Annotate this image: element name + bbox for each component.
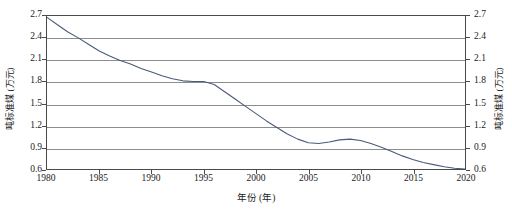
x-axis-tick-label: 2015 xyxy=(394,173,434,183)
y-axis-tick-label: 1.5 xyxy=(18,99,42,108)
y-axis-tick-mark xyxy=(466,104,470,105)
x-axis-tick-mark xyxy=(309,170,310,174)
y-axis-tick-mark xyxy=(466,59,470,60)
y-axis-tick-label: 0.9 xyxy=(18,143,42,152)
x-axis-tick-label: 1980 xyxy=(26,173,66,183)
x-axis-tick-label: 1995 xyxy=(184,173,224,183)
y-axis-tick-label: 1.8 xyxy=(474,76,498,85)
y-axis-tick-label: 0.9 xyxy=(474,143,498,152)
x-axis-tick-label: 1990 xyxy=(131,173,171,183)
y-axis-tick-label: 1.2 xyxy=(18,121,42,130)
y-axis-tick-label: 1.8 xyxy=(18,76,42,85)
y-axis-tick-label: 1.2 xyxy=(474,121,498,130)
y-axis-tick-label: 2.1 xyxy=(474,54,498,63)
y-axis-tick-label: 2.7 xyxy=(474,10,498,19)
x-axis-tick-mark xyxy=(151,170,152,174)
y-axis-tick-mark xyxy=(466,148,470,149)
x-axis-tick-mark xyxy=(414,170,415,174)
y-axis-tick-mark xyxy=(42,81,46,82)
y-axis-tick-mark xyxy=(42,37,46,38)
y-axis-tick-mark xyxy=(466,126,470,127)
y-axis-tick-mark xyxy=(466,37,470,38)
y-axis-tick-mark xyxy=(42,148,46,149)
y-axis-tick-mark xyxy=(466,15,470,16)
y-axis-tick-mark xyxy=(466,81,470,82)
y-axis-tick-label: 2.7 xyxy=(18,10,42,19)
y-axis-tick-mark xyxy=(42,104,46,105)
y-axis-tick-mark xyxy=(42,59,46,60)
data-line-series xyxy=(47,16,465,169)
x-axis-tick-label: 2010 xyxy=(341,173,381,183)
x-axis-tick-mark xyxy=(99,170,100,174)
plot-area xyxy=(46,15,466,170)
y-axis-tick-label: 2.1 xyxy=(18,54,42,63)
x-axis-tick-mark xyxy=(256,170,257,174)
y-axis-tick-mark xyxy=(42,126,46,127)
y-axis-tick-mark xyxy=(42,15,46,16)
x-axis-tick-label: 1985 xyxy=(79,173,119,183)
y-axis-tick-label: 2.4 xyxy=(474,32,498,41)
x-axis-tick-label: 2005 xyxy=(289,173,329,183)
y-axis-tick-mark xyxy=(466,170,470,171)
x-axis-tick-mark xyxy=(361,170,362,174)
x-axis-tick-label: 2000 xyxy=(236,173,276,183)
y-axis-tick-mark xyxy=(42,170,46,171)
x-axis-tick-label: 2020 xyxy=(446,173,486,183)
x-axis-tick-mark xyxy=(204,170,205,174)
y-axis-label-left: 吨标准煤 (万元) xyxy=(3,63,16,135)
x-axis-label: 年份 (年) xyxy=(0,190,512,204)
y-axis-tick-label: 1.5 xyxy=(474,99,498,108)
chart-container: 吨标准煤 (万元) 吨标准煤 (万元) 年份 (年) 0.60.91.21.51… xyxy=(0,0,512,210)
y-axis-tick-label: 2.4 xyxy=(18,32,42,41)
